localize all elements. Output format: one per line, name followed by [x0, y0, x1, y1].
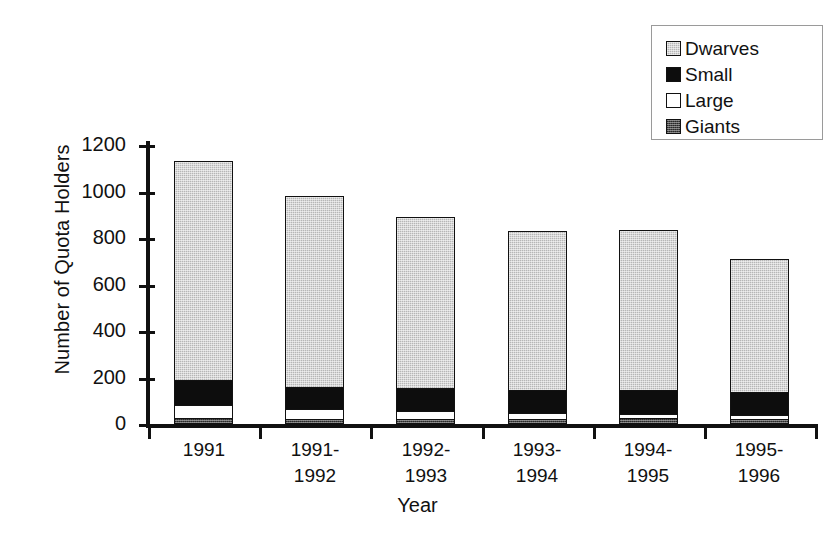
y-tick: 600: [139, 285, 155, 288]
bar-segment-dwarves[interactable]: [174, 161, 233, 381]
y-tick-label: 200: [93, 365, 126, 388]
legend-item-dwarves[interactable]: Dwarves: [666, 35, 822, 61]
stacked-bar[interactable]: [508, 231, 567, 424]
bar-segment-dwarves[interactable]: [396, 217, 455, 389]
x-tick-label-line: 1994: [477, 463, 597, 489]
y-tick-label: 0: [115, 412, 126, 435]
x-tick-label-line: 1996: [699, 463, 819, 489]
legend-label: Giants: [685, 117, 740, 136]
bar-segment-giants[interactable]: [174, 418, 233, 424]
x-tick-label-line: 1992-: [366, 437, 486, 463]
stacked-bar[interactable]: [174, 161, 233, 424]
bar-segment-small[interactable]: [508, 390, 567, 414]
x-tick-label: 1994-1995: [588, 437, 708, 489]
legend-swatch-large: [666, 93, 681, 108]
legend-label: Dwarves: [685, 39, 759, 58]
bar-segment-small[interactable]: [285, 387, 344, 411]
x-tick-label: 1992-1993: [366, 437, 486, 489]
legend-label: Large: [685, 91, 734, 110]
stacked-bar[interactable]: [730, 259, 789, 424]
legend-label: Small: [685, 65, 733, 84]
x-tick-label-line: 1993-: [477, 437, 597, 463]
y-tick-label: 400: [93, 319, 126, 342]
y-tick-label: 600: [93, 272, 126, 295]
x-tick-label: 1991-1992: [255, 437, 375, 489]
bar-segment-small[interactable]: [730, 392, 789, 416]
chart-legend: DwarvesSmallLargeGiants: [651, 25, 823, 140]
legend-swatch-dwarves: [666, 41, 681, 56]
plot-area: 020040060080010001200 19911991-19921992-…: [148, 145, 815, 424]
y-axis-title: Number of Quota Holders: [51, 110, 74, 410]
bar-segment-dwarves[interactable]: [285, 196, 344, 388]
y-tick: 1000: [139, 192, 155, 195]
x-tick-label: 1995-1996: [699, 437, 819, 489]
x-tick-label-line: 1994-: [588, 437, 708, 463]
stacked-bar[interactable]: [285, 196, 344, 424]
x-tick-label-line: 1995: [588, 463, 708, 489]
x-tick-label: 1991: [144, 437, 264, 463]
bar-segment-dwarves[interactable]: [508, 231, 567, 391]
x-tick-label-line: 1991: [144, 437, 264, 463]
legend-swatch-small: [666, 67, 681, 82]
bar-segment-small[interactable]: [396, 388, 455, 412]
bar-segment-small[interactable]: [174, 380, 233, 407]
legend-item-large[interactable]: Large: [666, 87, 822, 113]
x-tick-label-line: 1995-: [699, 437, 819, 463]
bar-segment-dwarves[interactable]: [619, 230, 678, 392]
stacked-bar-chart: Number of Quota Holders 0200400600800100…: [0, 0, 835, 550]
x-tick-label-line: 1992: [255, 463, 375, 489]
bar-segment-giants[interactable]: [730, 419, 789, 424]
stacked-bar[interactable]: [396, 217, 455, 424]
bar-segment-small[interactable]: [619, 390, 678, 416]
x-axis-title: Year: [0, 494, 835, 517]
y-tick: 0: [139, 424, 155, 427]
x-tick-label: 1993-1994: [477, 437, 597, 489]
stacked-bar[interactable]: [619, 230, 678, 424]
bar-segment-giants[interactable]: [396, 419, 455, 424]
y-tick-label: 800: [93, 226, 126, 249]
x-tick-label-line: 1993: [366, 463, 486, 489]
legend-item-small[interactable]: Small: [666, 61, 822, 87]
y-tick: 800: [139, 238, 155, 241]
y-tick: 200: [139, 378, 155, 381]
y-tick: 1200: [139, 145, 155, 148]
y-tick-label: 1200: [82, 133, 127, 156]
bar-segment-giants[interactable]: [285, 419, 344, 424]
y-tick-label: 1000: [82, 179, 127, 202]
y-tick: 400: [139, 331, 155, 334]
bar-segment-dwarves[interactable]: [730, 259, 789, 394]
bar-segment-giants[interactable]: [619, 418, 678, 424]
x-tick-label-line: 1991-: [255, 437, 375, 463]
legend-item-giants[interactable]: Giants: [666, 113, 822, 139]
legend-swatch-giants: [666, 119, 681, 134]
bar-segment-giants[interactable]: [508, 419, 567, 424]
